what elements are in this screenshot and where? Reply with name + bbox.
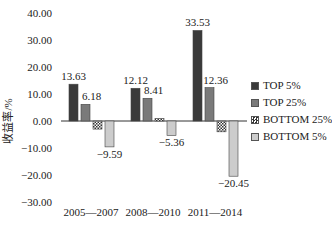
legend-item: BOTTOM 5% [251, 128, 332, 145]
y-tick-label: 10.00 [27, 88, 52, 100]
bar [93, 121, 102, 129]
bar-value-label: 12.36 [203, 74, 228, 86]
bar [155, 118, 164, 121]
bar-series-group: 13.636.18−9.5912.128.41−5.3633.5312.36−2… [61, 16, 249, 189]
bar [167, 121, 176, 135]
legend-label: TOP 5% [263, 77, 301, 94]
legend: TOP 5%TOP 25%BOTTOM 25%BOTTOM 5% [251, 77, 332, 145]
bar-value-label: 13.63 [61, 70, 86, 82]
x-tick-label: 2005—2007 [64, 206, 120, 218]
y-tick-label: 20.00 [27, 61, 52, 73]
legend-label: BOTTOM 25% [263, 111, 332, 128]
y-tick-label: −30.00 [21, 196, 52, 208]
x-tick-label: 2008—2010 [126, 206, 182, 218]
legend-label: TOP 25% [263, 94, 306, 111]
legend-swatch-icon [251, 116, 259, 124]
bar-value-label: 33.53 [185, 16, 210, 28]
bar [229, 121, 238, 176]
legend-swatch-icon [251, 99, 259, 107]
bar-value-label: 6.18 [82, 90, 102, 102]
legend-item: TOP 25% [251, 94, 332, 111]
bar [205, 88, 214, 121]
bar-value-label: −5.36 [159, 136, 185, 148]
legend-swatch-icon [251, 82, 259, 90]
legend-item: TOP 5% [251, 77, 332, 94]
y-tick-label: 30.00 [27, 34, 52, 46]
legend-item: BOTTOM 25% [251, 111, 332, 128]
y-tick-label: 0.00 [33, 115, 53, 127]
y-tick-label: −10.00 [21, 142, 52, 154]
bar-value-label: −9.59 [97, 148, 123, 160]
y-tick-label: −20.00 [21, 169, 52, 181]
bar [217, 121, 226, 132]
y-tick-label: 40.00 [27, 7, 52, 19]
y-axis: 40.0030.0020.0010.000.00−10.00−20.00−30.… [21, 7, 52, 208]
bar [105, 121, 114, 147]
x-tick-label: 2011—2014 [188, 206, 243, 218]
bar-value-label: −20.45 [218, 177, 249, 189]
bar-value-label: 8.41 [144, 84, 163, 96]
bar [69, 84, 78, 121]
bar [193, 30, 202, 121]
legend-swatch-icon [251, 133, 259, 141]
bar [143, 98, 152, 121]
bar [81, 104, 90, 121]
bar [131, 88, 140, 121]
x-axis-labels: 2005—20072008—20102011—2014 [64, 206, 243, 218]
legend-label: BOTTOM 5% [263, 128, 327, 145]
y-axis-label: 收益率/% [1, 98, 14, 143]
